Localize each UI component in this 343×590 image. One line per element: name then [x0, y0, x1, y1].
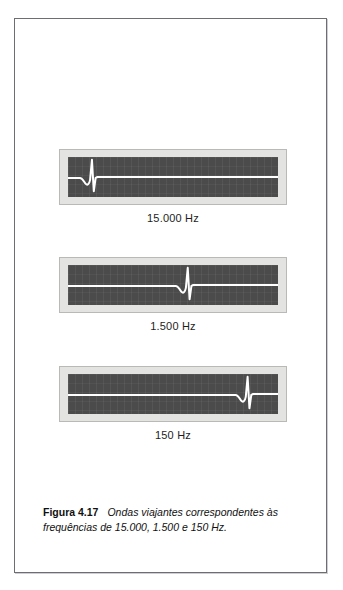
oscilloscope-screen	[68, 157, 278, 197]
figure-frame: 15.000 Hz 1.500 Hz 150	[14, 18, 327, 573]
oscilloscope-screen	[68, 374, 278, 414]
oscilloscope-screen	[68, 265, 278, 305]
panel-label-1500hz: 1.500 Hz	[59, 320, 287, 332]
waveform-group-15000hz: 15.000 Hz	[59, 149, 287, 224]
oscilloscope-panel	[59, 257, 287, 313]
panel-label-150hz: 150 Hz	[59, 429, 287, 441]
travelling-wave-trace-1500hz	[68, 265, 278, 305]
oscilloscope-panel	[59, 149, 287, 205]
figure-caption: Figura 4.17Ondas viajantes correspondent…	[43, 505, 304, 535]
oscilloscope-panel	[59, 366, 287, 422]
figure-number: Figura 4.17	[43, 506, 98, 518]
travelling-wave-trace-150hz	[68, 374, 278, 414]
waveform-group-150hz: 150 Hz	[59, 366, 287, 441]
waveform-group-1500hz: 1.500 Hz	[59, 257, 287, 332]
panel-label-15000hz: 15.000 Hz	[59, 212, 287, 224]
travelling-wave-trace-15000hz	[68, 157, 278, 197]
